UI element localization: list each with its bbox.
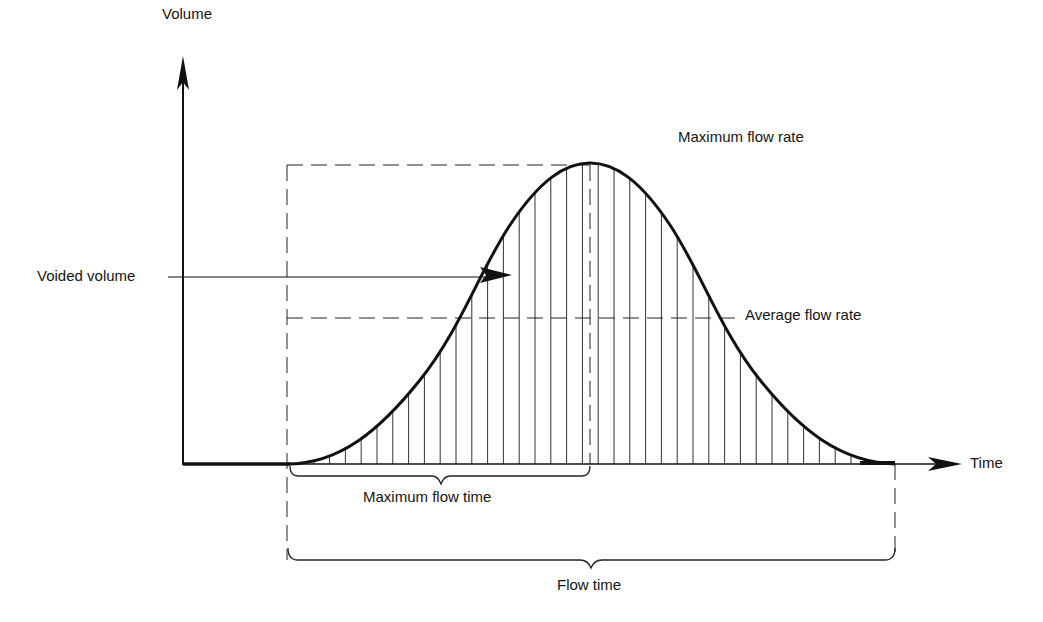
max-flow-rate-label: Maximum flow rate bbox=[678, 128, 804, 145]
uroflow-diagram bbox=[0, 0, 1043, 622]
max-flow-time-label: Maximum flow time bbox=[363, 488, 491, 505]
y-axis-label: Volume bbox=[162, 5, 212, 22]
x-axis-label: Time bbox=[970, 454, 1003, 471]
average-flow-rate-label: Average flow rate bbox=[745, 306, 861, 323]
max-flow-time-brace bbox=[290, 466, 590, 484]
voided-volume-label: Voided volume bbox=[37, 267, 135, 284]
flow-time-brace bbox=[288, 548, 895, 568]
flow-time-label: Flow time bbox=[557, 576, 621, 593]
